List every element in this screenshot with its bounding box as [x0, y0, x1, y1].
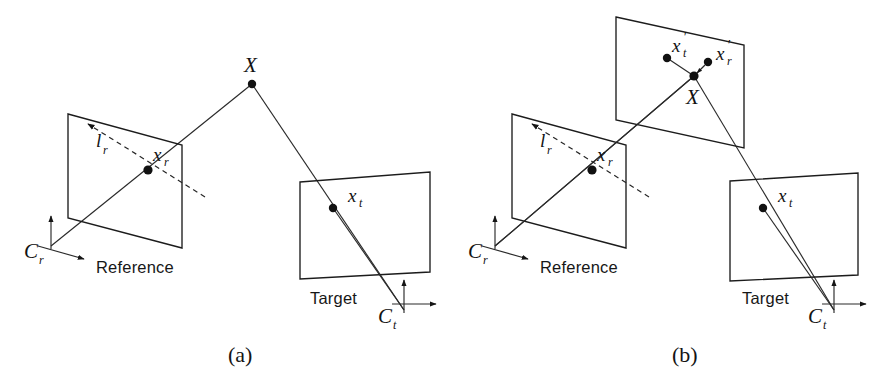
- panel-b: X x t ′ x r ′ x r x t: [468, 17, 866, 367]
- ray-overlay-cr-X-b: [495, 76, 694, 246]
- label-xt-b: x t: [777, 185, 793, 210]
- ray-X-to-camera-t-b: [694, 76, 834, 310]
- label-xt-prime-sub-b: t: [683, 46, 687, 60]
- point-xr-a: [143, 165, 152, 174]
- segment-X-to-xt-prime-b: [667, 58, 694, 76]
- label-xr-prime-sub-b: r: [727, 54, 732, 68]
- panel-a: X x r x t l r C r C: [24, 53, 436, 367]
- label-cr-b: C r: [468, 239, 488, 267]
- caption-a: (a): [228, 342, 252, 367]
- label-xt-a: x t: [347, 185, 363, 210]
- plane-label-target-a: Target: [310, 289, 357, 307]
- label-xr-base-b: x: [596, 144, 606, 165]
- label-xr-prime-b: x r ′: [715, 38, 732, 68]
- figure-root: X x r x t l r C r C: [0, 0, 896, 379]
- point-xr-b: [587, 165, 596, 174]
- label-cr-sub-a: r: [39, 253, 44, 267]
- label-cr-sub-b: r: [483, 253, 488, 267]
- label-ct-base-a: C: [378, 304, 393, 328]
- camera-axes-ct-b: [822, 280, 866, 313]
- label-xt-base-b: x: [777, 185, 787, 206]
- geometry-diagram: X x r x t l r C r C: [0, 0, 896, 379]
- label-ct-sub-a: t: [393, 318, 397, 332]
- point-X-b: [689, 71, 698, 80]
- plane-label-reference-a: Reference: [96, 258, 174, 276]
- label-lr-a: l r: [96, 130, 108, 157]
- label-lr-sub-b: r: [547, 143, 552, 157]
- target-plane-a: [300, 172, 430, 279]
- label-ct-a: C t: [378, 304, 397, 332]
- point-xt-prime-b: [663, 54, 671, 62]
- plane-label-reference-b: Reference: [540, 258, 618, 276]
- label-cr-base-b: C: [468, 239, 483, 263]
- label-xr-prime-mark-b: ′: [727, 38, 731, 53]
- label-xr-a: x r: [152, 144, 169, 169]
- label-lr-base-b: l: [540, 130, 545, 151]
- label-xr-sub-b: r: [608, 155, 613, 169]
- label-ct-sub-b: t: [823, 318, 827, 332]
- label-xr-base-a: x: [152, 144, 162, 165]
- point-X-a: [248, 80, 256, 88]
- label-ct-b: C t: [808, 304, 827, 332]
- camera-axes-ct-a: [392, 280, 436, 313]
- label-xr-sub-a: r: [164, 155, 169, 169]
- point-xt-a: [329, 204, 337, 212]
- label-cr-a: C r: [24, 239, 44, 267]
- target-plane-b: [730, 173, 858, 281]
- label-xt-sub-b: t: [789, 196, 793, 210]
- correction-arrow-b: [697, 65, 705, 73]
- label-xt-sub-a: t: [359, 196, 363, 210]
- label-xt-prime-base-b: x: [671, 35, 681, 56]
- reference-plane-a: [68, 114, 182, 248]
- point-xr-prime-b: [704, 58, 712, 66]
- label-xt-base-a: x: [347, 185, 357, 206]
- label-lr-sub-a: r: [103, 143, 108, 157]
- ray-X-to-camera-t: [252, 84, 404, 310]
- label-X-a: X: [243, 53, 258, 77]
- label-xr-prime-base-b: x: [715, 43, 725, 64]
- point-xt-b: [759, 204, 767, 212]
- label-lr-base-a: l: [96, 130, 101, 151]
- label-lr-b: l r: [540, 130, 552, 157]
- label-ct-base-b: C: [808, 304, 823, 328]
- caption-b: (b): [672, 342, 698, 367]
- label-X-b: X: [685, 85, 700, 109]
- plane-label-target-b: Target: [742, 289, 789, 307]
- reference-plane-b: [512, 114, 626, 248]
- label-xt-prime-b: x t ′: [671, 30, 687, 60]
- label-cr-base-a: C: [24, 239, 39, 263]
